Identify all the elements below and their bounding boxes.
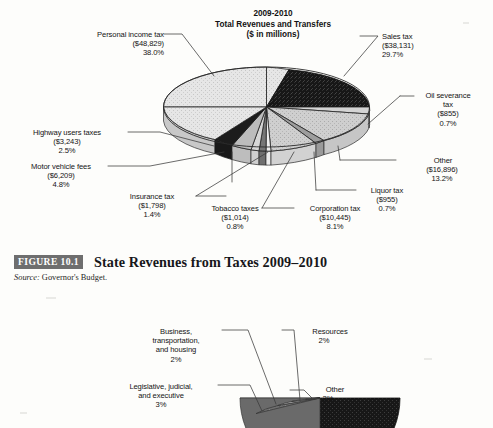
callout2-resources-pct: 2%	[298, 336, 350, 345]
callout2-business-pct: 2%	[130, 355, 222, 364]
callout2-legislative-line-2: and executive	[104, 391, 218, 400]
page-speckle	[20, 412, 27, 414]
callout2-business-transportation-housing: Business, transportation, and housing 2%	[130, 327, 222, 364]
callout2-legislative-judicial-executive: Legislative, judicial, and executive 3%	[104, 382, 218, 410]
page-speckle	[424, 358, 432, 360]
page-canvas: 2009-2010 Total Revenues and Transfers (…	[0, 0, 493, 428]
callout2-business-line-1: Business,	[130, 327, 222, 336]
page-speckle	[463, 22, 469, 24]
chart2-pie-graphic	[0, 0, 493, 428]
callout2-legislative-line-1: Legislative, judicial,	[104, 382, 218, 391]
callout2-business-line-3: and housing	[130, 345, 222, 354]
page-speckle	[46, 297, 56, 299]
callout2-other-name: Other	[306, 385, 362, 394]
callout2-other: Other 2%	[306, 385, 362, 403]
callout2-resources: Resources 2%	[298, 327, 362, 345]
callout2-business-line-2: transportation,	[130, 336, 222, 345]
callout2-resources-name: Resources	[298, 327, 362, 336]
callout2-other-pct: 2%	[306, 394, 350, 403]
callout2-legislative-pct: 3%	[104, 400, 218, 409]
